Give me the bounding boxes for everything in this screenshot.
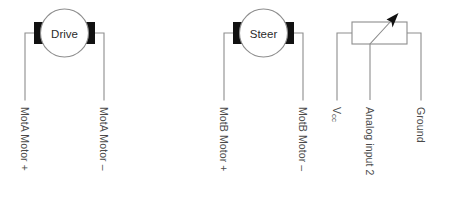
potentiometer-group (337, 13, 421, 100)
pin-label-motb-minus: MotB Motor – (298, 107, 309, 171)
steer-motor-group: Steer (224, 9, 303, 100)
pin-label-analog-input-2: Analog input 2 (365, 107, 376, 176)
pin-label-mota-minus: MotA Motor – (99, 107, 110, 171)
drive-motor-group: Drive (25, 9, 104, 100)
drive-motor-label: Drive (51, 28, 78, 40)
pin-label-mota-plus: MotA Motor + (20, 107, 31, 171)
pin-label-vcc: Vcc (330, 107, 342, 122)
pin-label-vcc-subscript: cc (330, 114, 339, 122)
potentiometer-vcc-wire (337, 33, 352, 100)
steer-motor-label: Steer (250, 28, 278, 40)
potentiometer-ground-wire (407, 33, 421, 100)
schematic-svg: Drive Steer (0, 0, 450, 205)
wiring-diagram: Drive Steer MotA Motor + MotA Motor (0, 0, 450, 205)
pin-label-motb-plus: MotB Motor + (219, 107, 230, 172)
pin-label-ground: Ground (416, 107, 427, 143)
